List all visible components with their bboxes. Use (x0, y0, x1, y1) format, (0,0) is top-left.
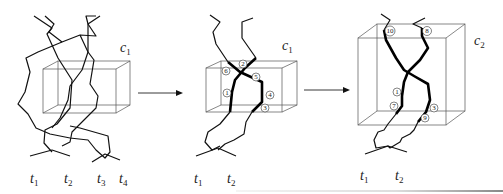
arrow-2-to-3 (304, 87, 350, 93)
svg-text:3: 3 (263, 104, 267, 112)
arrow-1-to-2 (138, 90, 183, 96)
bottom-rule (236, 190, 503, 192)
tangle-strands-3 (365, 14, 430, 154)
cube-label-c1-second: c1 (282, 38, 293, 55)
tangle-label-t2-second: t2 (227, 171, 235, 188)
panel-3: 10 8 1 7 3 9 c2 t1 t2 (358, 14, 485, 185)
tangle-label-t4: t4 (119, 171, 128, 188)
svg-text:9: 9 (423, 114, 427, 122)
tangle-label-t3: t3 (97, 171, 106, 188)
svg-text:6: 6 (224, 67, 228, 75)
cube-c1 (43, 61, 130, 113)
panel-2: 6 2 5 1 4 3 c1 t1 t2 (194, 15, 297, 188)
svg-text:3: 3 (432, 104, 436, 112)
panel-1: c1 t1 t2 t3 t4 (18, 16, 131, 188)
tangle-label-t2: t2 (64, 171, 72, 188)
svg-text:1: 1 (225, 89, 229, 97)
svg-text:8: 8 (425, 27, 429, 35)
svg-text:2: 2 (241, 60, 245, 68)
cube-c1-second (206, 61, 297, 112)
svg-text:1: 1 (395, 88, 399, 96)
diagram-canvas: c1 t1 t2 t3 t4 6 2 5 (0, 0, 503, 194)
svg-text:5: 5 (254, 73, 258, 81)
tangle-label-t1: t1 (30, 171, 38, 188)
tangle-strands-1 (18, 16, 120, 162)
svg-text:7: 7 (392, 102, 396, 110)
tangle-label-t1-third: t1 (360, 168, 368, 185)
svg-text:4: 4 (268, 91, 272, 99)
cube-label-c2: c2 (474, 33, 485, 50)
tangle-label-t2-third: t2 (395, 168, 403, 185)
tangle-label-t1-second: t1 (194, 171, 202, 188)
cube-label-c1: c1 (120, 40, 131, 57)
svg-text:10: 10 (387, 27, 395, 35)
